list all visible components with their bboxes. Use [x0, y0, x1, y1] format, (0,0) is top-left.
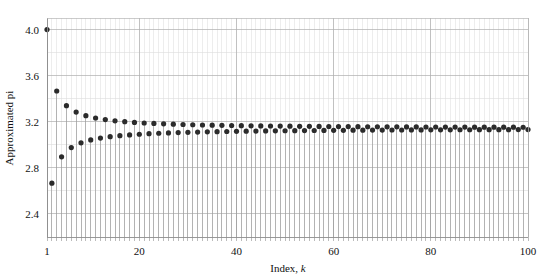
- figure-container: 2.42.83.23.64.0 120406080100 Approximate…: [0, 0, 547, 280]
- data-point: [453, 124, 458, 129]
- data-point: [414, 124, 419, 129]
- data-point: [448, 127, 453, 132]
- data-point: [273, 128, 278, 133]
- data-point: [98, 135, 103, 140]
- data-point: [282, 128, 287, 133]
- data-point: [103, 117, 108, 122]
- data-point: [244, 129, 249, 134]
- data-point: [326, 124, 331, 129]
- data-point: [122, 119, 127, 124]
- data-point: [521, 125, 526, 130]
- data-point: [287, 124, 292, 129]
- data-point: [239, 123, 244, 128]
- data-point: [185, 130, 190, 135]
- data-point: [360, 128, 365, 133]
- data-point: [248, 123, 253, 128]
- data-point: [331, 128, 336, 133]
- data-point: [423, 124, 428, 129]
- data-point: [59, 154, 64, 159]
- data-point: [312, 128, 317, 133]
- data-point: [365, 124, 370, 129]
- data-point: [316, 124, 321, 129]
- data-point: [200, 122, 205, 127]
- data-point: [389, 127, 394, 132]
- y-tick-label: 2.4: [25, 208, 39, 220]
- data-point: [64, 103, 69, 108]
- x-tick-label: 80: [425, 245, 437, 257]
- data-point: [385, 124, 390, 129]
- data-point: [511, 125, 516, 130]
- data-point: [156, 131, 161, 136]
- y-tick-label: 3.6: [25, 70, 39, 82]
- y-tick-label: 2.8: [25, 162, 39, 174]
- data-point: [491, 125, 496, 130]
- data-point: [355, 124, 360, 129]
- x-tick-label: 100: [520, 245, 537, 257]
- data-point: [321, 128, 326, 133]
- data-point: [506, 127, 511, 132]
- data-point: [482, 125, 487, 130]
- data-point: [229, 123, 234, 128]
- x-tick-label: 20: [134, 245, 146, 257]
- data-point: [443, 124, 448, 129]
- data-point: [142, 120, 147, 125]
- data-point: [88, 137, 93, 142]
- data-point: [278, 124, 283, 129]
- data-point: [477, 127, 482, 132]
- data-point: [137, 132, 142, 137]
- data-point: [234, 129, 239, 134]
- data-point: [210, 123, 215, 128]
- data-point: [93, 115, 98, 120]
- data-point: [302, 128, 307, 133]
- data-point: [83, 113, 88, 118]
- data-point: [350, 128, 355, 133]
- data-point: [161, 121, 166, 126]
- data-point: [69, 145, 74, 150]
- data-point: [404, 124, 409, 129]
- data-point: [341, 128, 346, 133]
- data-point: [195, 129, 200, 134]
- data-point: [399, 127, 404, 132]
- data-point: [496, 127, 501, 132]
- data-point: [54, 88, 59, 93]
- data-point: [146, 131, 151, 136]
- pi-approximation-stem-chart: 2.42.83.23.64.0 120406080100 Approximate…: [0, 0, 547, 280]
- data-point: [132, 120, 137, 125]
- data-point: [263, 128, 268, 133]
- data-point: [501, 125, 506, 130]
- x-tick-label: 40: [231, 245, 243, 257]
- data-point: [258, 123, 263, 128]
- data-point: [108, 134, 113, 139]
- data-point: [268, 123, 273, 128]
- data-point: [438, 127, 443, 132]
- data-point: [307, 124, 312, 129]
- data-point: [49, 181, 54, 186]
- data-point: [516, 127, 521, 132]
- data-point: [151, 121, 156, 126]
- data-point: [380, 127, 385, 132]
- data-point: [117, 133, 122, 138]
- data-point: [180, 122, 185, 127]
- data-point: [176, 130, 181, 135]
- data-point: [224, 129, 229, 134]
- data-point: [78, 140, 83, 145]
- x-tick-label: 1: [44, 245, 50, 257]
- data-point: [409, 127, 414, 132]
- data-point: [336, 124, 341, 129]
- y-axis-title: Approximated pi: [3, 91, 15, 166]
- data-point: [127, 132, 132, 137]
- data-point: [346, 124, 351, 129]
- data-point: [375, 124, 380, 129]
- data-point: [370, 128, 375, 133]
- data-point: [487, 127, 492, 132]
- data-point: [292, 128, 297, 133]
- data-point: [467, 127, 472, 132]
- data-point: [190, 122, 195, 127]
- y-tick-label: 3.2: [25, 116, 39, 128]
- data-point: [462, 125, 467, 130]
- data-point: [219, 123, 224, 128]
- data-point: [472, 125, 477, 130]
- x-axis-title: Index, k: [270, 262, 307, 274]
- data-point: [214, 129, 219, 134]
- data-point: [457, 127, 462, 132]
